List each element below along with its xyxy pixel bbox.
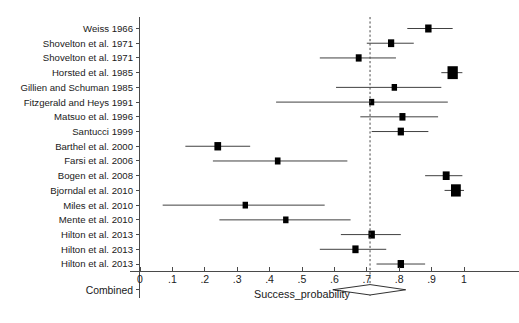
forest-plot-canvas: Weiss 1966Shovelton et al. 1971Shovelton… (0, 0, 519, 323)
x-axis-title: Success_probability (254, 288, 351, 300)
study-row: Mente et al. 2010 (59, 214, 351, 225)
point-estimate-marker (392, 84, 397, 91)
point-estimate-marker (448, 66, 458, 79)
study-label: Matsuo et al. 1996 (54, 111, 133, 122)
x-axis-tick-label: .3 (233, 273, 242, 285)
point-estimate-marker (388, 39, 394, 47)
point-estimate-marker (368, 231, 374, 239)
x-axis-tick-label: .5 (298, 273, 307, 285)
combined-label: Combined (86, 285, 134, 296)
point-estimate-marker (243, 202, 248, 209)
study-label: Miles et al. 2010 (63, 200, 133, 211)
point-estimate-marker (443, 171, 450, 180)
point-estimate-marker (352, 245, 358, 253)
study-row: Miles et al. 2010 (63, 200, 325, 211)
point-estimate-marker (356, 54, 362, 61)
study-label: Shovelton et al. 1971 (43, 38, 133, 49)
point-estimate-marker (398, 260, 404, 268)
x-axis-tick-label: 0 (137, 273, 143, 285)
study-row: Hilton et al. 2013 (61, 229, 401, 240)
study-row: Bogen et al. 2008 (58, 170, 463, 181)
x-axis-tick-label: .6 (330, 273, 339, 285)
point-estimate-marker (425, 25, 431, 33)
study-row: Matsuo et al. 1996 (54, 111, 438, 122)
study-row: Shovelton et al. 1971 (43, 52, 396, 63)
x-axis: 0.1.2.3.4.5.6.7.8.91Success_probability (130, 267, 519, 301)
study-label: Hilton et al. 2013 (61, 258, 133, 269)
study-row: Weiss 1966 (83, 23, 453, 34)
point-estimate-marker (399, 113, 405, 121)
x-axis-tick-label: .4 (265, 273, 274, 285)
study-rows: Weiss 1966Shovelton et al. 1971Shovelton… (20, 23, 464, 270)
x-axis-tick-label: .8 (395, 273, 404, 285)
study-row: Bjorndal et al. 2010 (50, 184, 464, 196)
study-row: Horsted et al. 1985 (52, 66, 462, 79)
combined-row: Combined (86, 285, 406, 296)
study-label: Bogen et al. 2008 (58, 170, 133, 181)
study-row: Gillien and Schuman 1985 (20, 82, 441, 93)
study-label: Horsted et al. 1985 (52, 67, 133, 78)
study-label: Mente et al. 2010 (59, 214, 133, 225)
study-row: Fitzgerald and Heys 1991 (24, 97, 448, 108)
study-label: Farsi et al. 2006 (64, 155, 133, 166)
x-axis-tick-label: .2 (200, 273, 209, 285)
point-estimate-marker (283, 216, 288, 223)
study-label: Bjorndal et al. 2010 (50, 185, 133, 196)
study-label: Weiss 1966 (83, 23, 133, 34)
study-row: Shovelton et al. 1971 (43, 38, 414, 49)
study-label: Hilton et al. 2013 (61, 244, 133, 255)
point-estimate-marker (398, 128, 404, 136)
study-row: Barthel et al. 2000 (55, 141, 250, 152)
x-axis-tick-label: .1 (168, 273, 177, 285)
point-estimate-marker (214, 142, 221, 150)
study-label: Barthel et al. 2000 (55, 141, 133, 152)
study-label: Hilton et al. 2013 (61, 229, 133, 240)
point-estimate-marker (451, 184, 461, 196)
study-row: Hilton et al. 2013 (61, 244, 386, 255)
point-estimate-marker (275, 157, 281, 164)
x-axis-tick-label: .9 (427, 273, 436, 285)
study-label: Gillien and Schuman 1985 (20, 82, 133, 93)
study-label: Santucci 1999 (72, 126, 133, 137)
study-label: Shovelton et al. 1971 (43, 52, 133, 63)
x-axis-tick-label: .7 (362, 273, 371, 285)
forest-plot-figure: Weiss 1966Shovelton et al. 1971Shovelton… (0, 0, 519, 323)
study-row: Farsi et al. 2006 (64, 155, 347, 166)
x-axis-tick-label: 1 (461, 273, 467, 285)
study-label: Fitzgerald and Heys 1991 (24, 97, 133, 108)
study-row: Santucci 1999 (72, 126, 428, 137)
